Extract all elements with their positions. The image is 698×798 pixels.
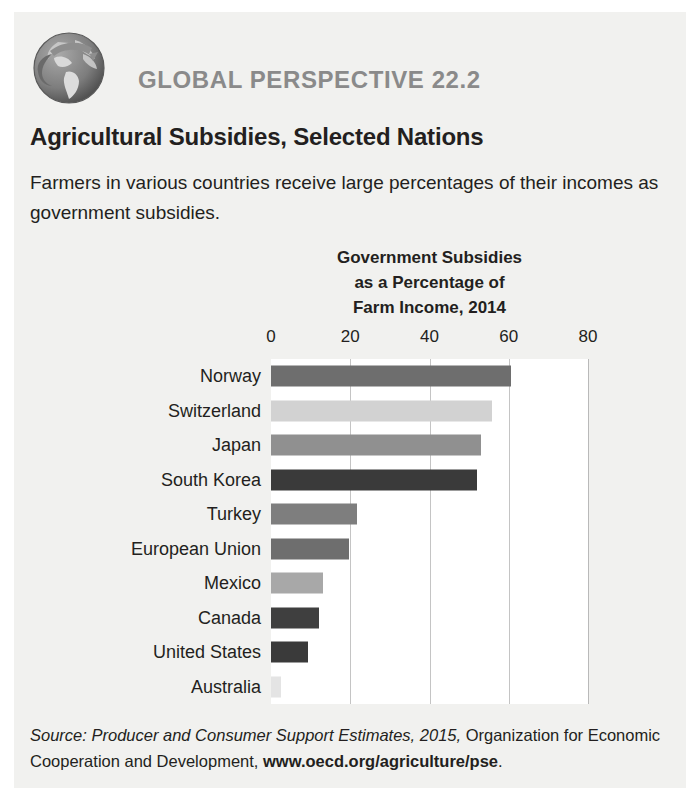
source-label: Source: <box>30 726 87 744</box>
bar-row: Japan <box>0 428 698 463</box>
bar-united-states <box>271 642 308 663</box>
bar-switzerland <box>271 400 492 421</box>
bar-canada <box>271 607 319 628</box>
x-tick-label-40: 40 <box>420 327 439 347</box>
bar-row: South Korea <box>0 463 698 498</box>
category-label-european-union: European Union <box>131 538 261 559</box>
category-label-australia: Australia <box>191 676 261 697</box>
bar-row: Switzerland <box>0 394 698 429</box>
category-label-japan: Japan <box>212 435 261 456</box>
chart-title-line-1: Government Subsidies <box>271 245 588 270</box>
bar-european-union <box>271 538 349 559</box>
global-perspective-figure: GLOBAL PERSPECTIVE 22.2 Agricultural Sub… <box>0 0 698 798</box>
bar-row: Canada <box>0 601 698 636</box>
chart-title-line-2: as a Percentage of <box>271 270 588 295</box>
x-tick-label-0: 0 <box>266 327 275 347</box>
bar-row: European Union <box>0 532 698 567</box>
bar-australia <box>271 676 281 697</box>
category-label-norway: Norway <box>200 366 261 387</box>
bar-row: Australia <box>0 670 698 705</box>
bar-mexico <box>271 573 323 594</box>
bar-row: Turkey <box>0 497 698 532</box>
source-italic: Producer and Consumer Support Estimates,… <box>91 726 461 744</box>
x-tick-label-80: 80 <box>579 327 598 347</box>
category-label-mexico: Mexico <box>204 573 261 594</box>
category-label-south-korea: South Korea <box>161 469 261 490</box>
bar-norway <box>271 366 511 387</box>
bar-row: Norway <box>0 359 698 394</box>
source-url: www.oecd.org/agriculture/pse <box>263 752 498 770</box>
bar-south-korea <box>271 469 477 490</box>
bar-chart: Government Subsidies as a Percentage of … <box>0 0 698 798</box>
source-period: . <box>498 752 503 770</box>
x-tick-label-20: 20 <box>341 327 360 347</box>
category-label-switzerland: Switzerland <box>168 400 261 421</box>
x-tick-label-60: 60 <box>499 327 518 347</box>
bar-japan <box>271 435 481 456</box>
category-label-canada: Canada <box>198 607 261 628</box>
chart-title: Government Subsidies as a Percentage of … <box>271 245 588 320</box>
category-label-turkey: Turkey <box>207 504 261 525</box>
chart-title-line-3: Farm Income, 2014 <box>271 295 588 320</box>
bar-row: Mexico <box>0 566 698 601</box>
bar-turkey <box>271 504 357 525</box>
category-label-united-states: United States <box>153 642 261 663</box>
bar-row: United States <box>0 635 698 670</box>
source-note: Source: Producer and Consumer Support Es… <box>30 722 670 774</box>
